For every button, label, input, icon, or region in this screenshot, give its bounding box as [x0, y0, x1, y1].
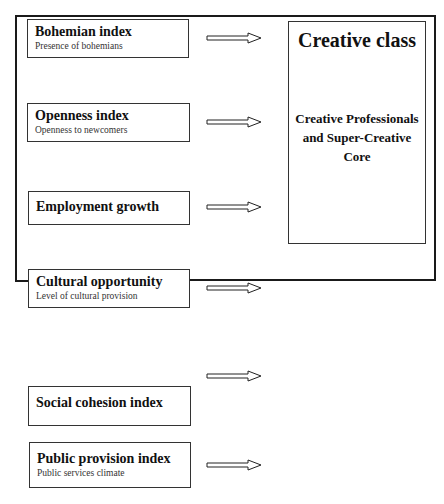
output-box-creative-class: Creative class Creative Professionals an…: [288, 21, 426, 244]
group-frame-left: [15, 15, 17, 282]
output-title: Creative class: [289, 29, 425, 52]
input-title: Openness index: [35, 108, 182, 124]
input-subtitle: Openness to newcomers: [35, 124, 182, 136]
input-box-bohemian-index: Bohemian index Presence of bohemians: [27, 19, 189, 58]
group-frame-bottom-right: [190, 279, 436, 281]
input-subtitle: Presence of bohemians: [35, 40, 181, 52]
arrow-right-icon: [206, 282, 262, 294]
output-description: Creative Professionals and Super-Creativ…: [289, 109, 425, 166]
arrow-right-icon: [206, 370, 262, 382]
input-title: Bohemian index: [35, 24, 181, 40]
input-title: Employment growth: [36, 199, 182, 215]
input-title: Cultural opportunity: [36, 274, 182, 290]
group-frame-bottom-left: [15, 280, 29, 282]
arrow-right-icon: [206, 459, 262, 471]
input-box-cultural-opportunity: Cultural opportunity Level of cultural p…: [28, 269, 190, 308]
arrow-right-icon: [206, 116, 262, 128]
input-title: Public provision index: [37, 451, 183, 467]
arrow-right-icon: [206, 201, 262, 213]
input-box-openness-index: Openness index Openness to newcomers: [27, 103, 190, 142]
group-frame-right: [434, 15, 436, 281]
input-box-social-cohesion-index: Social cohesion index: [28, 386, 191, 426]
group-frame-top: [15, 15, 436, 17]
arrow-right-icon: [206, 32, 262, 44]
input-box-employment-growth: Employment growth: [28, 191, 190, 225]
input-subtitle: Public services climate: [37, 467, 183, 479]
input-title: Social cohesion index: [36, 395, 183, 411]
input-subtitle: Level of cultural provision: [36, 290, 182, 302]
input-box-public-provision-index: Public provision index Public services c…: [29, 442, 191, 488]
